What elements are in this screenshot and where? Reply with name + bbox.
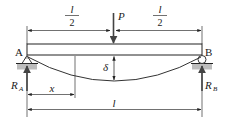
position-dimension: x — [28, 82, 74, 95]
position-label: x — [49, 82, 55, 94]
deflection-curve — [28, 57, 201, 81]
beam — [27, 44, 202, 55]
reaction-arrow-b: R B — [202, 66, 218, 93]
reaction-subscript-b: B — [213, 85, 218, 93]
span-label: l — [112, 97, 115, 109]
half-span-label-right: l 2 — [153, 3, 167, 28]
reaction-subscript-a: A — [18, 85, 24, 93]
load-arrow: P — [114, 10, 126, 43]
span-dimension: l — [28, 97, 201, 110]
support-label-b: B — [205, 46, 212, 58]
half-span-label-left: l 2 — [65, 3, 79, 28]
support-label-a: A — [15, 46, 23, 58]
fraction-denominator: 2 — [158, 17, 163, 28]
load-label: P — [117, 10, 125, 22]
deflection-label: δ — [103, 61, 109, 73]
fraction-denominator: 2 — [70, 17, 75, 28]
reaction-label-b: R — [204, 79, 212, 91]
deflection-dimension: δ — [103, 57, 114, 81]
fraction-numerator: l — [70, 3, 73, 15]
reaction-label-a: R — [10, 79, 18, 91]
beam-diagram: l 2 l 2 P A B δ R A — [0, 0, 227, 127]
fraction-numerator: l — [158, 3, 161, 15]
reaction-arrow-a: R A — [10, 66, 27, 93]
